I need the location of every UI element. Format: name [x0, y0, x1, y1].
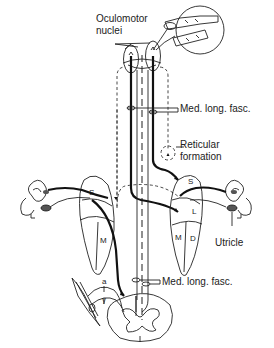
mlf-lower-label: Med. long. fasc. — [162, 276, 233, 287]
mlf-lower-marker — [132, 278, 160, 286]
left-vestibular-nerve — [48, 188, 108, 198]
eye-with-muscles — [164, 6, 224, 54]
vestibular-pathways-diagram: Oculomotor nuclei Med. long. fasc. Retic… — [0, 0, 274, 348]
oculomotor-nuclei-label-line2: nuclei — [96, 25, 122, 36]
oculomotor-nuclei — [115, 28, 175, 73]
muscle-spindle — [72, 278, 100, 326]
right-labyrinth — [225, 180, 251, 226]
right-nucleus-m: M — [175, 233, 182, 242]
reticular-label-line1: Reticular — [180, 139, 220, 150]
reticular-label-line2: formation — [180, 151, 222, 162]
left-nucleus-m: M — [100, 236, 107, 245]
mlf-upper-label: Med. long. fasc. — [180, 103, 251, 114]
left-labyrinth — [21, 180, 51, 218]
oculomotor-nuclei-label-line1: Oculomotor — [96, 13, 148, 24]
utricle-label: Utricle — [215, 237, 244, 248]
right-nucleus-l: L — [192, 207, 197, 216]
right-vestibular-nerve — [180, 188, 226, 197]
gamma-label: γ — [102, 295, 106, 304]
alpha-label: a — [102, 277, 107, 286]
mlf-tracts — [131, 56, 178, 312]
right-nucleus-s: S — [188, 177, 193, 186]
right-nucleus-d: D — [190, 234, 196, 243]
